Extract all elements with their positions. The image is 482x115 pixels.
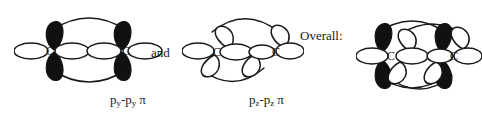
atom-label-carbon-right: C	[122, 44, 130, 58]
sp-hybrid-lobe-outer-left	[14, 43, 48, 59]
sp-hybrid-lobe-sigma-left	[55, 43, 89, 59]
caption-py-py-pi: py-pyπ	[110, 92, 146, 108]
caption-pz-pz-pi: pz-pzπ	[249, 92, 284, 108]
sp-hybrid-lobe-sigma-right	[87, 43, 121, 59]
sp-hybrid-lobe-sigma-left	[220, 44, 252, 60]
orbital-figure: C C py-pyπ and C C pz-pzπ Overall:	[0, 0, 482, 115]
sp-hybrid-lobe-outer-left	[182, 43, 214, 59]
atom-label-carbon-right: C	[450, 49, 458, 63]
atom-label-carbon-right: C	[272, 45, 280, 59]
connector-and: and	[151, 45, 170, 61]
caption-py-py-text: py-py	[110, 92, 136, 107]
diagram-py-py-pi: C C	[14, 4, 164, 96]
sp-hybrid-lobe-outer-left	[356, 48, 388, 64]
p-orbital-lobe-open-upper-right	[451, 27, 469, 49]
overall-label: Overall:	[300, 28, 343, 44]
atom-label-carbon-left: C	[46, 44, 54, 58]
sp-hybrid-lobe-sigma-left	[396, 48, 428, 64]
caption-pz-pz-text: pz-pz	[249, 92, 274, 107]
diagram-pz-pz-pi: C C	[182, 4, 304, 96]
atom-label-carbon-left: C	[213, 45, 221, 59]
pi-symbol-middle: π	[274, 92, 284, 107]
sp-hybrid-lobe-outer-right	[454, 48, 482, 64]
sp-hybrid-lobe-outer-right	[276, 43, 304, 59]
atom-label-carbon-left: C	[387, 49, 395, 63]
p-orbital-lobe-open-lower-left	[388, 62, 406, 84]
p-orbital-lobe-filled-upper-right	[435, 24, 452, 52]
diagram-overall-combined: C C	[356, 4, 482, 110]
pi-symbol-left: π	[136, 92, 146, 107]
